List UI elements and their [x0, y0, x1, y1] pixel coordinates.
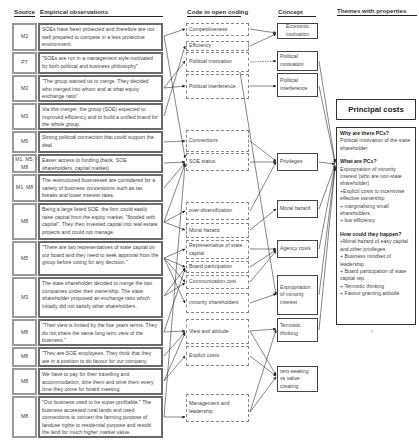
connector-arrows [0, 0, 419, 446]
